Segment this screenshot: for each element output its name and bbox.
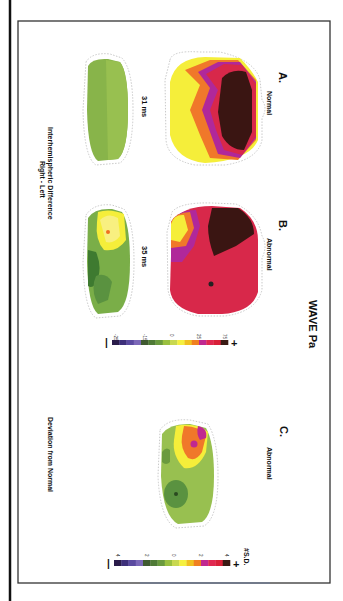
colorbar-amplitude-tick-label: 75 bbox=[222, 334, 227, 340]
colorbar-sd-tick-label: 0 bbox=[171, 554, 176, 557]
colorbar-amplitude-swatch bbox=[214, 340, 222, 345]
colorbar-sd-swatch bbox=[216, 560, 224, 566]
colorbar-amplitude-tick-label: 0 bbox=[169, 334, 174, 337]
oval-c-green-left bbox=[162, 448, 170, 464]
diff-map-35ms bbox=[83, 205, 134, 318]
colorbar-sd-swatch bbox=[223, 560, 231, 566]
time-label-35ms: 35 ms bbox=[140, 246, 149, 267]
colorbar-amplitude-swatch bbox=[141, 340, 149, 345]
colorbar-amplitude-swatch bbox=[119, 340, 127, 345]
colorbar-sd-swatch bbox=[150, 560, 158, 566]
colorbar-amplitude-tick-label: -15 bbox=[142, 334, 147, 341]
brain-map-b bbox=[167, 203, 265, 316]
colorbar-amplitude-swatch bbox=[148, 340, 156, 345]
map-b-spot bbox=[209, 282, 214, 287]
panel-b-condition: Abnormal bbox=[266, 238, 273, 271]
colorbar-sd-swatch bbox=[208, 560, 216, 566]
time-label-31ms: 31 ms bbox=[140, 96, 149, 117]
colorbar-amplitude-swatch bbox=[163, 340, 171, 345]
colorbar-sd-swatch bbox=[194, 560, 202, 566]
colorbar-sd-tick-label: 2 bbox=[198, 554, 203, 557]
colorbar-amplitude-tick-label: -25 bbox=[113, 334, 118, 341]
colorbar-sd-minus: | bbox=[107, 558, 110, 569]
figure-title: WAVE Pa bbox=[307, 300, 319, 349]
row-caption-line1: Interhemispheric Difference bbox=[46, 127, 54, 220]
colorbar-sd: |+42024#S.D. bbox=[107, 548, 250, 570]
panel-c-label: C. bbox=[278, 426, 290, 437]
brain-map-a bbox=[165, 52, 265, 165]
panel-c-condition: Abnormal bbox=[266, 447, 273, 480]
colorbar-amplitude-tick-label: 25 bbox=[196, 334, 201, 340]
colorbar-sd-swatch bbox=[158, 560, 166, 566]
colorbar-sd-swatch bbox=[179, 560, 187, 566]
row-caption-line2: Right - Left bbox=[38, 161, 46, 199]
colorbar-sd-swatch bbox=[114, 560, 122, 566]
colorbar-sd-swatch bbox=[201, 560, 209, 566]
panel-a-label: A. bbox=[277, 72, 289, 83]
colorbar-amplitude: |+-25-1502575 bbox=[105, 334, 237, 349]
colorbar-amplitude-swatch bbox=[177, 340, 185, 345]
deviation-caption: Deviation from Normal bbox=[47, 417, 54, 492]
colorbar-amplitude-plus: + bbox=[231, 337, 237, 349]
oval-35ms-spot bbox=[106, 230, 110, 234]
colorbar-amplitude-swatch bbox=[199, 340, 207, 345]
colorbar-amplitude-swatch bbox=[206, 340, 214, 345]
colorbar-amplitude-swatch bbox=[156, 340, 164, 345]
colorbar-sd-swatch bbox=[143, 560, 151, 566]
colorbar-amplitude-swatch bbox=[112, 340, 120, 345]
colorbar-amplitude-swatch bbox=[170, 340, 178, 345]
colorbar-sd-unit-label: #S.D. bbox=[243, 548, 250, 566]
colorbar-amplitude-minus: | bbox=[105, 337, 108, 348]
oval-c-spot bbox=[174, 492, 178, 496]
colorbar-sd-swatch bbox=[172, 560, 180, 566]
colorbar-sd-tick-label: 4 bbox=[115, 554, 120, 557]
colorbar-sd-swatch bbox=[129, 560, 137, 566]
figure: WAVE Pa A. Normal B. Abnormal C. Abnorma… bbox=[0, 0, 343, 601]
diff-map-31ms bbox=[83, 54, 133, 165]
colorbar-amplitude-swatch bbox=[134, 340, 142, 345]
colorbar-sd-swatch bbox=[187, 560, 195, 566]
colorbar-amplitude-swatch bbox=[192, 340, 200, 345]
oval-c-magenta-spot bbox=[191, 441, 198, 448]
colorbar-amplitude-swatch bbox=[221, 340, 229, 345]
oval-31ms-light bbox=[106, 60, 128, 160]
panel-a-condition: Normal bbox=[266, 91, 273, 115]
deviation-map-c bbox=[158, 420, 218, 528]
colorbar-amplitude-swatch bbox=[185, 340, 193, 345]
colorbar-sd-tick-label: 4 bbox=[224, 554, 229, 557]
colorbar-sd-swatch bbox=[121, 560, 129, 566]
colorbar-sd-swatch bbox=[136, 560, 144, 566]
panel-b-label: B. bbox=[277, 220, 289, 231]
colorbar-sd-tick-label: 2 bbox=[144, 554, 149, 557]
colorbar-sd-swatch bbox=[165, 560, 173, 566]
colorbar-sd-plus: + bbox=[233, 558, 239, 570]
colorbar-amplitude-swatch bbox=[127, 340, 135, 345]
